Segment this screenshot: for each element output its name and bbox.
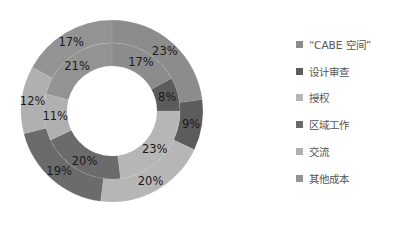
percent-label: 11% <box>42 109 68 123</box>
legend-label: 设计审查 <box>309 64 349 79</box>
legend-swatch <box>296 175 303 182</box>
legend-label: “CABE 空间” <box>309 37 371 52</box>
percent-label: 17% <box>58 35 84 49</box>
percent-label: 9% <box>182 117 200 131</box>
legend-label: 其他成本 <box>309 171 349 186</box>
legend-label: 授权 <box>309 90 329 105</box>
percent-label: 19% <box>46 164 72 178</box>
percent-label: 17% <box>128 55 154 69</box>
legend-item-authorization: 授权 <box>296 85 395 112</box>
legend-label: 区域工作 <box>309 117 349 132</box>
legend-item-other-costs: 其他成本 <box>296 165 395 192</box>
legend-item-exchange: 交流 <box>296 138 395 165</box>
legend-swatch <box>296 68 303 75</box>
percent-label: 23% <box>152 44 178 58</box>
legend-item-cabe-space: “CABE 空间” <box>296 31 395 58</box>
legend-swatch <box>296 121 303 128</box>
percent-label: 20% <box>138 174 164 188</box>
legend-swatch <box>296 148 303 155</box>
legend-item-design-review: 设计审查 <box>296 58 395 85</box>
percent-label: 20% <box>72 154 98 168</box>
legend: “CABE 空间” 设计审查 授权 区域工作 交流 其他成本 <box>296 31 395 192</box>
percent-label: 21% <box>64 59 90 73</box>
percent-label: 23% <box>142 142 168 156</box>
legend-swatch <box>296 41 303 48</box>
percent-label: 8% <box>158 90 176 104</box>
legend-item-regional-work: 区域工作 <box>296 111 395 138</box>
legend-swatch <box>296 94 303 101</box>
percent-label: 12% <box>20 94 46 108</box>
legend-label: 交流 <box>309 144 329 159</box>
